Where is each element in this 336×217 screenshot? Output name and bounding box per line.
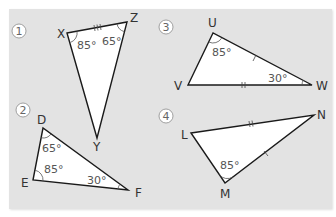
svg-text:1: 1 bbox=[16, 25, 23, 38]
angle-label-u: 85° bbox=[212, 46, 232, 59]
vertex-label-f: F bbox=[135, 186, 142, 200]
number-badge-2: 2 bbox=[16, 103, 30, 117]
triangle-uvw bbox=[188, 33, 312, 85]
angle-label-w: 30° bbox=[268, 72, 288, 85]
angle-label-f: 30° bbox=[87, 174, 107, 187]
vertex-label-n: N bbox=[317, 108, 326, 122]
vertex-label-d: D bbox=[37, 113, 46, 127]
vertex-label-l: L bbox=[181, 128, 188, 142]
angle-label-e: 85° bbox=[44, 163, 64, 176]
triangles-diagram: 1 X Z Y 85° 65° 2 bbox=[0, 0, 336, 217]
angle-label-z: 65° bbox=[102, 35, 122, 48]
svg-text:3: 3 bbox=[163, 21, 170, 34]
svg-text:4: 4 bbox=[163, 110, 170, 123]
triangle-1: 1 X Z Y 85° 65° bbox=[12, 11, 138, 154]
triangle-3: 3 U V W 85° 30° bbox=[159, 16, 328, 93]
number-badge-3: 3 bbox=[159, 20, 173, 34]
triangle-2: 2 D E F 65° 85° 30° bbox=[16, 103, 142, 200]
vertex-label-z: Z bbox=[130, 11, 138, 25]
number-badge-4: 4 bbox=[159, 109, 173, 123]
vertex-label-m: M bbox=[220, 187, 230, 201]
angle-label-m: 85° bbox=[220, 159, 240, 172]
vertex-label-v: V bbox=[174, 79, 183, 93]
vertex-label-e: E bbox=[21, 176, 29, 190]
angle-label-x: 85° bbox=[77, 39, 97, 52]
vertex-label-u: U bbox=[208, 16, 217, 30]
triangles-figure: 1 X Z Y 85° 65° 2 bbox=[0, 0, 336, 217]
angle-label-d: 65° bbox=[42, 142, 62, 155]
vertex-label-y: Y bbox=[92, 140, 101, 154]
svg-text:2: 2 bbox=[20, 104, 27, 117]
number-badge-1: 1 bbox=[12, 24, 26, 38]
vertex-label-x: X bbox=[57, 27, 65, 41]
vertex-label-w: W bbox=[316, 79, 328, 93]
triangle-4: 4 L N M 85° bbox=[159, 108, 326, 201]
